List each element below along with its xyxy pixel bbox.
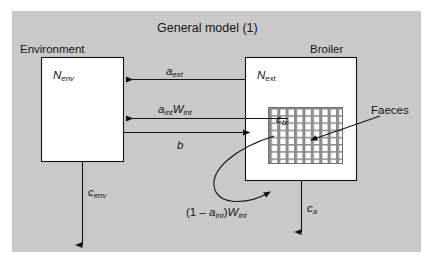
flow-label-c-env-subscript: env bbox=[94, 191, 107, 200]
flow-label-b-base: b bbox=[177, 139, 183, 151]
figure-root: General model (1) Environment Broiler Ne… bbox=[0, 0, 433, 269]
flow-label-w-int2-subscript: int bbox=[238, 211, 246, 220]
flow-label-w-int-base: W bbox=[173, 103, 184, 115]
faeces-block-symbol: cbr bbox=[276, 114, 289, 126]
flow-label-a-ext-subscript: ext bbox=[172, 70, 182, 79]
faeces-callout-label: Faeces bbox=[371, 105, 409, 117]
flow-label-c-env-base: c bbox=[88, 186, 94, 198]
flow-label-c-a-base: c bbox=[307, 202, 313, 214]
flow-label-a-ext: aext bbox=[166, 66, 183, 78]
broiler-symbol-subscript: ext bbox=[265, 74, 275, 83]
environment-symbol: Nenv bbox=[53, 70, 74, 82]
broiler-symbol: Next bbox=[257, 70, 276, 82]
flow-label-b: b bbox=[177, 140, 183, 152]
environment-caption: Environment bbox=[20, 44, 85, 56]
faeces-block-symbol-base: c bbox=[276, 113, 282, 125]
flow-label-c-env: cenv bbox=[88, 187, 106, 199]
figure-title: General model (1) bbox=[157, 22, 258, 35]
flow-label-w-int-subscript: int bbox=[184, 108, 192, 117]
flow-label-c-a-subscript: a bbox=[313, 207, 317, 216]
broiler-caption: Broiler bbox=[310, 44, 343, 56]
flow-label-w-int2-base: W bbox=[228, 206, 239, 218]
faeces-block-symbol-subscript: br bbox=[282, 118, 289, 127]
environment-symbol-subscript: env bbox=[61, 74, 74, 83]
flow-label-prefix: (1 – bbox=[186, 206, 209, 218]
flow-label-a-int-subscript: int bbox=[164, 108, 172, 117]
flow-label-a-int2-subscript: int bbox=[215, 211, 223, 220]
flow-label-a-int-w-int: aintWint bbox=[158, 104, 192, 116]
flow-label-c-a: ca bbox=[307, 203, 317, 215]
diagram-vector-layer bbox=[0, 0, 433, 269]
flow-label-one-minus-a-int-w-int: (1 – aint)Wint bbox=[186, 207, 247, 219]
